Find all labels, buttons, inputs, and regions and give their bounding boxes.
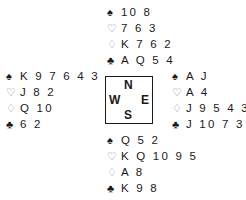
- club-icon: ♣: [107, 52, 121, 68]
- north-hearts-cards: 7 6 3: [121, 20, 158, 36]
- east-hearts: ♡A 4: [172, 84, 246, 100]
- heart-icon: ♡: [172, 84, 186, 100]
- club-icon: ♣: [107, 180, 121, 196]
- west-hearts: ♡J 8 2: [6, 84, 100, 100]
- heart-icon: ♡: [107, 148, 121, 164]
- west-diamonds-cards: Q 10: [20, 100, 54, 116]
- west-diamonds: ♢Q 10: [6, 100, 100, 116]
- heart-icon: ♡: [107, 20, 121, 36]
- south-hearts: ♡K Q 10 9 5: [107, 148, 198, 164]
- south-spades-cards: Q 5 2: [121, 132, 160, 148]
- south-clubs-cards: K 9 8: [121, 180, 159, 196]
- east-hand: ♠A J ♡A 4 ♢J 9 5 4 3 ♣J 10 7 3: [172, 68, 246, 132]
- heart-icon: ♡: [6, 84, 20, 100]
- north-clubs: ♣A Q 5 4: [107, 52, 175, 68]
- north-hearts: ♡7 6 3: [107, 20, 175, 36]
- compass-box: N W E S: [105, 76, 153, 124]
- diamond-icon: ♢: [172, 100, 186, 116]
- north-clubs-cards: A Q 5 4: [121, 52, 175, 68]
- south-diamonds: ♢A 8: [107, 164, 198, 180]
- east-hearts-cards: A 4: [186, 84, 209, 100]
- west-hand: ♠K 9 7 6 4 3 ♡J 8 2 ♢Q 10 ♣6 2: [6, 68, 100, 132]
- north-diamonds-cards: K 7 6 2: [121, 36, 173, 52]
- spade-icon: ♠: [172, 68, 186, 84]
- east-diamonds-cards: J 9 5 4 3: [186, 100, 246, 116]
- north-spades-cards: 10 8: [121, 4, 152, 20]
- west-hearts-cards: J 8 2: [20, 84, 56, 100]
- spade-icon: ♠: [107, 4, 121, 20]
- east-diamonds: ♢J 9 5 4 3: [172, 100, 246, 116]
- east-label: E: [141, 94, 149, 106]
- east-spades: ♠A J: [172, 68, 246, 84]
- diamond-icon: ♢: [107, 36, 121, 52]
- diamond-icon: ♢: [107, 164, 121, 180]
- spade-icon: ♠: [6, 68, 20, 84]
- east-clubs-cards: J 10 7 3: [186, 116, 245, 132]
- north-hand: ♠10 8 ♡7 6 3 ♢K 7 6 2 ♣A Q 5 4: [107, 4, 175, 68]
- spade-icon: ♠: [107, 132, 121, 148]
- south-label: S: [124, 109, 132, 121]
- south-hand: ♠Q 5 2 ♡K Q 10 9 5 ♢A 8 ♣K 9 8: [107, 132, 198, 196]
- club-icon: ♣: [6, 116, 20, 132]
- club-icon: ♣: [172, 116, 186, 132]
- north-spades: ♠10 8: [107, 4, 175, 20]
- south-spades: ♠Q 5 2: [107, 132, 198, 148]
- west-label: W: [109, 94, 120, 106]
- east-spades-cards: A J: [186, 68, 209, 84]
- west-clubs: ♣6 2: [6, 116, 100, 132]
- diamond-icon: ♢: [6, 100, 20, 116]
- west-spades-cards: K 9 7 6 4 3: [20, 68, 100, 84]
- north-label: N: [124, 79, 133, 91]
- west-clubs-cards: 6 2: [20, 116, 43, 132]
- south-diamonds-cards: A 8: [121, 164, 144, 180]
- east-clubs: ♣J 10 7 3: [172, 116, 246, 132]
- west-spades: ♠K 9 7 6 4 3: [6, 68, 100, 84]
- south-clubs: ♣K 9 8: [107, 180, 198, 196]
- south-hearts-cards: K Q 10 9 5: [121, 148, 198, 164]
- north-diamonds: ♢K 7 6 2: [107, 36, 175, 52]
